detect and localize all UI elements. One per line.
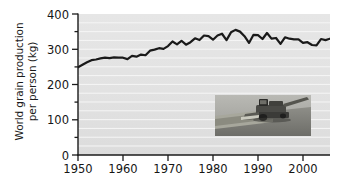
x-tick-label-1960: 1960 bbox=[108, 162, 137, 176]
y-tick-label-200: 200 bbox=[47, 78, 69, 92]
y-axis-tick-labels: 400 300 200 100 0 bbox=[47, 8, 69, 163]
x-tick-label-1980: 1980 bbox=[198, 162, 227, 176]
x-axis-ticks bbox=[78, 155, 303, 161]
y-tick-label-0: 0 bbox=[62, 149, 69, 163]
combine-harvester-icon bbox=[215, 95, 311, 136]
x-tick-label-1970: 1970 bbox=[153, 162, 182, 176]
chart-figure: World grain production per person (kg) bbox=[0, 0, 340, 190]
y-tick-label-300: 300 bbox=[47, 43, 69, 57]
x-tick-label-1950: 1950 bbox=[63, 162, 92, 176]
inset-photo-combine-harvester bbox=[215, 95, 311, 136]
x-axis-tick-labels: 1950 1960 1970 1980 1990 2000 bbox=[63, 162, 317, 176]
y-tick-label-400: 400 bbox=[47, 8, 69, 22]
x-tick-label-1990: 1990 bbox=[243, 162, 272, 176]
y-tick-label-100: 100 bbox=[47, 113, 69, 127]
y-axis-ticks bbox=[72, 14, 78, 155]
x-tick-label-2000: 2000 bbox=[288, 162, 317, 176]
